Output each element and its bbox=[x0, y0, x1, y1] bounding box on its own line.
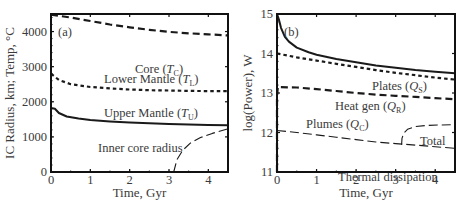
plot-frame bbox=[277, 14, 455, 172]
x-axis-label: Time, Gyr bbox=[113, 185, 167, 200]
series-label: Upper Mantle (TU) bbox=[104, 106, 198, 122]
y-tick-label: 0 bbox=[41, 165, 47, 179]
panel-a-core-mantle-temperatures: Core (TC)Lower Mantle (TL)Upper Mantle (… bbox=[2, 14, 228, 200]
x-tick-label: 1 bbox=[313, 173, 319, 187]
x-tick-label: 4 bbox=[205, 173, 212, 187]
x-tick-label: 4 bbox=[432, 173, 439, 187]
y-tick-label: 13 bbox=[261, 86, 274, 100]
figure: Core (TC)Lower Mantle (TL)Upper Mantle (… bbox=[0, 0, 465, 205]
y-tick-label: 1000 bbox=[22, 130, 47, 144]
y-tick-label: 11 bbox=[261, 165, 273, 179]
panel-label: (a) bbox=[58, 25, 72, 39]
y-tick-label: 14 bbox=[261, 47, 274, 61]
x-axis-label: Time, Gyr bbox=[339, 185, 393, 200]
y-axis-label: IC Radius, km; Temp, °C bbox=[2, 27, 17, 159]
series-label: Lower Mantle (TL) bbox=[104, 72, 198, 88]
panel-b-power-budget: Plates (QS)Heat gen (QR)Plumes (QC)Therm… bbox=[240, 7, 455, 200]
x-tick-label: 0 bbox=[48, 173, 54, 187]
series-label: Total bbox=[420, 134, 446, 148]
y-tick-label: 15 bbox=[261, 7, 274, 21]
y-tick-label: 3000 bbox=[22, 60, 47, 74]
series-label: Plates (QS) bbox=[372, 79, 427, 95]
y-tick-label: 4000 bbox=[22, 25, 47, 39]
x-tick-label: 1 bbox=[87, 173, 93, 187]
series-label: Inner core radius bbox=[98, 141, 183, 155]
series-label: Plumes (QC) bbox=[306, 117, 369, 133]
y-axis-label: log(Power), W bbox=[240, 54, 255, 132]
series-label: Heat gen (QR) bbox=[335, 99, 406, 115]
panel-label: (b) bbox=[284, 25, 299, 39]
x-tick-label: 3 bbox=[166, 173, 172, 187]
y-tick-label: 2000 bbox=[22, 95, 47, 109]
series-plates-q-s bbox=[277, 14, 455, 73]
y-tick-label: 12 bbox=[261, 126, 274, 140]
series-core-t-c bbox=[51, 15, 228, 36]
x-tick-label: 0 bbox=[274, 173, 280, 187]
x-tick-label: 3 bbox=[393, 173, 399, 187]
series-heat-gen-q-r bbox=[277, 54, 455, 80]
